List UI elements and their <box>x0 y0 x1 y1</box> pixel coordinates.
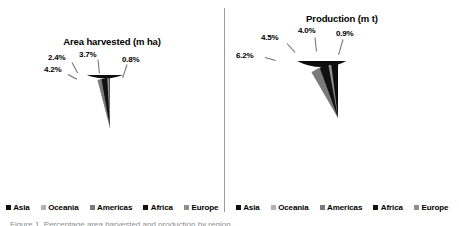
pie-label-europe-left: 0.8% <box>122 55 139 64</box>
legend-swatch-oceania-icon <box>41 205 46 210</box>
legend-label-asia: Asia <box>13 203 30 212</box>
legend-label-americas: Americas <box>97 203 132 212</box>
legend-swatch-africa-icon <box>143 205 148 210</box>
legend-item-oceania-left[interactable]: Oceania <box>41 203 79 212</box>
pie-label-oceania-left: 4.2% <box>44 65 61 74</box>
legend-item-asia-left[interactable]: Asia <box>6 203 30 212</box>
chart-title-right: Production (m t) <box>225 13 459 24</box>
figure-caption: Figure 1. Percentage area harvested and … <box>10 220 450 226</box>
leader-line-oceania-right <box>265 57 276 61</box>
pie-svg-right <box>281 61 395 175</box>
figure-panel: Area harvested (m ha) 4.2% 2.4% 3.7% 0.8… <box>0 0 459 226</box>
legend-item-americas-right[interactable]: Americas <box>320 203 363 212</box>
legend-label-europe: Europe <box>421 203 448 212</box>
legend-item-africa-right[interactable]: Africa <box>373 203 403 212</box>
chart-panel-area-harvested: Area harvested (m ha) 4.2% 2.4% 3.7% 0.8… <box>0 0 224 226</box>
chart-title-left: Area harvested (m ha) <box>0 36 224 47</box>
legend-item-oceania-right[interactable]: Oceania <box>271 203 309 212</box>
pie-label-oceania-right: 6.2% <box>236 51 253 60</box>
legend-swatch-asia-icon <box>236 205 241 210</box>
legend-item-africa-left[interactable]: Africa <box>143 203 173 212</box>
legend-right: Asia Oceania Americas Africa Europe <box>225 203 459 212</box>
legend-label-oceania: Oceania <box>278 203 308 212</box>
legend-item-americas-left[interactable]: Americas <box>90 203 133 212</box>
pie-label-americas-right: 4.5% <box>261 33 278 42</box>
legend-item-europe-left[interactable]: Europe <box>184 203 218 212</box>
legend-swatch-asia-icon <box>6 205 11 210</box>
leader-line-africa-right <box>315 37 317 51</box>
pie-label-africa-left: 3.7% <box>79 50 96 59</box>
pie-svg-left <box>57 75 163 181</box>
legend-left: Asia Oceania Americas Africa Europe <box>0 203 224 212</box>
legend-label-africa: Africa <box>151 203 173 212</box>
leader-line-africa-left <box>98 59 100 73</box>
legend-label-asia: Asia <box>243 203 260 212</box>
pie-chart-production <box>281 61 395 175</box>
legend-swatch-europe-icon <box>184 205 189 210</box>
leader-line-americas-right <box>287 43 296 53</box>
leader-line-americas-left <box>72 62 79 73</box>
legend-item-europe-right[interactable]: Europe <box>414 203 448 212</box>
legend-swatch-europe-icon <box>414 205 419 210</box>
legend-swatch-oceania-icon <box>271 205 276 210</box>
legend-swatch-americas-icon <box>90 205 95 210</box>
pie-label-europe-right: 0.9% <box>336 29 353 38</box>
legend-label-europe: Europe <box>191 203 218 212</box>
legend-item-asia-right[interactable]: Asia <box>236 203 260 212</box>
pie-label-americas-left: 2.4% <box>48 53 65 62</box>
leader-line-europe-right <box>338 39 343 55</box>
pie-chart-area-harvested <box>57 75 163 181</box>
pie-label-africa-right: 4.0% <box>298 26 315 35</box>
chart-panel-production: Production (m t) 6.2% 4.5% 4.0% 0.9% <box>225 0 459 226</box>
legend-label-africa: Africa <box>381 203 403 212</box>
legend-label-americas: Americas <box>327 203 362 212</box>
legend-swatch-americas-icon <box>320 205 325 210</box>
legend-label-oceania: Oceania <box>48 203 78 212</box>
legend-swatch-africa-icon <box>373 205 378 210</box>
